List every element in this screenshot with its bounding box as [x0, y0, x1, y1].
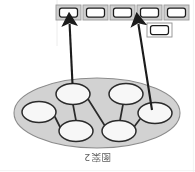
feature-box-3[interactable] [110, 5, 135, 20]
graph-node-6[interactable] [102, 121, 136, 142]
graph-node-5[interactable] [59, 121, 93, 142]
graph-node-3[interactable] [109, 84, 143, 105]
graph-node-4[interactable] [138, 103, 172, 124]
feature-box-5[interactable] [164, 5, 189, 20]
feature-vector-row [56, 5, 189, 20]
detached-feature-box[interactable] [147, 23, 172, 37]
arrow-left [70, 24, 73, 84]
feature-box-1[interactable] [56, 5, 81, 20]
feature-box-4[interactable] [137, 5, 162, 20]
figure-root: 图案2 [0, 0, 195, 172]
graph-node-1[interactable] [56, 84, 90, 105]
graph-node-2[interactable] [22, 102, 56, 123]
diagram-canvas [0, 0, 195, 172]
feature-box-2[interactable] [83, 5, 108, 20]
